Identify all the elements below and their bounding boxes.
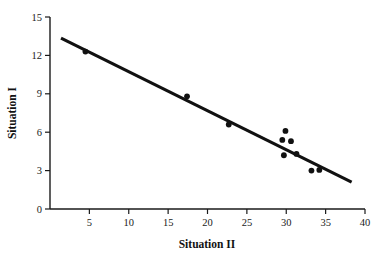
data-point-5	[288, 138, 294, 144]
y-axis-ticks	[45, 17, 50, 209]
x-tick-label: 20	[202, 217, 213, 228]
x-axis-tick-labels: 510152025303540	[87, 217, 371, 228]
x-tick-label: 25	[242, 217, 253, 228]
data-point-1	[184, 93, 190, 99]
x-tick-label: 40	[360, 217, 371, 228]
x-tick-label: 10	[124, 217, 135, 228]
x-tick-label: 5	[87, 217, 92, 228]
regression-line	[61, 38, 352, 182]
data-point-3	[283, 128, 289, 134]
y-tick-label: 9	[37, 88, 42, 99]
x-tick-label: 35	[320, 217, 331, 228]
regression-line-segment	[61, 38, 352, 182]
data-point-8	[309, 168, 315, 174]
data-point-0	[83, 49, 89, 55]
data-point-4	[279, 137, 285, 143]
y-tick-label: 3	[37, 165, 42, 176]
y-axis-tick-labels: 03691215	[32, 12, 43, 215]
data-point-6	[281, 152, 287, 158]
x-tick-label: 30	[281, 217, 292, 228]
data-point-2	[226, 122, 232, 128]
chart-canvas: 03691215 510152025303540 Situation II Si…	[0, 0, 377, 261]
y-tick-label: 12	[32, 50, 43, 61]
y-axis-title: Situation I	[6, 86, 18, 139]
y-tick-label: 0	[37, 204, 42, 215]
data-point-9	[316, 167, 322, 173]
data-point-7	[294, 151, 300, 157]
x-tick-label: 15	[163, 217, 174, 228]
x-axis-ticks	[89, 209, 365, 214]
scatter-chart: 03691215 510152025303540 Situation II Si…	[0, 0, 377, 261]
x-axis-title: Situation II	[179, 238, 236, 250]
y-tick-label: 6	[37, 127, 42, 138]
y-tick-label: 15	[32, 12, 43, 23]
